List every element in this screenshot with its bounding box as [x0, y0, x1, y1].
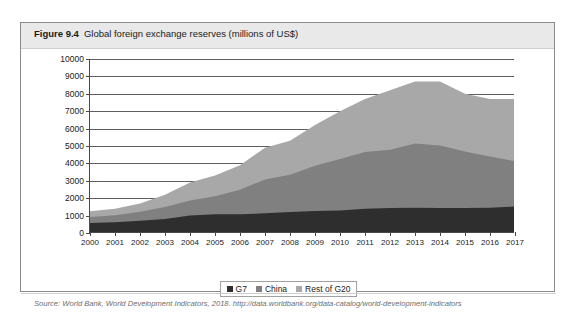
stacked-area-series	[90, 59, 514, 232]
chart-legend: G7ChinaRest of G20	[220, 281, 358, 297]
y-axis-tick	[86, 198, 90, 199]
x-axis-tick	[240, 232, 241, 236]
x-axis-label: 2009	[306, 238, 324, 247]
x-axis-tick	[165, 232, 166, 236]
figure-caption-text: Global foreign exchange reserves (millio…	[84, 28, 298, 39]
x-axis-label: 2014	[431, 238, 449, 247]
y-axis-tick	[86, 94, 90, 95]
x-axis-label: 2000	[81, 238, 99, 247]
x-axis-tick	[440, 232, 441, 236]
legend-swatch-icon	[296, 286, 302, 292]
x-axis-label: 2008	[281, 238, 299, 247]
y-axis-tick	[86, 59, 90, 60]
x-axis-tick	[490, 232, 491, 236]
x-axis-tick	[140, 232, 141, 236]
x-axis-label: 2004	[181, 238, 199, 247]
x-axis-tick	[515, 232, 516, 236]
source-divider	[21, 293, 556, 294]
y-axis-tick	[86, 146, 90, 147]
x-axis-tick	[90, 232, 91, 236]
x-axis-tick	[265, 232, 266, 236]
x-axis-tick	[365, 232, 366, 236]
x-axis-tick	[115, 232, 116, 236]
x-axis-label: 2012	[381, 238, 399, 247]
y-axis-tick	[86, 163, 90, 164]
y-axis-tick	[86, 129, 90, 130]
x-axis-label: 2002	[131, 238, 149, 247]
x-axis-tick	[415, 232, 416, 236]
y-axis-label: 6000	[65, 124, 84, 134]
plot-area: 0100020003000400050006000700080009000100…	[89, 59, 514, 233]
y-axis-label: 8000	[65, 89, 84, 99]
x-axis-label: 2011	[356, 238, 373, 247]
figure-caption: Figure 9.4Global foreign exchange reserv…	[34, 28, 298, 39]
x-axis-label: 2006	[231, 238, 249, 247]
x-axis-tick	[190, 232, 191, 236]
y-axis-label: 7000	[65, 106, 84, 116]
figure-container: Figure 9.4Global foreign exchange reserv…	[20, 22, 555, 292]
x-axis-tick	[290, 232, 291, 236]
x-axis-tick	[465, 232, 466, 236]
y-axis-label: 1000	[65, 211, 84, 221]
y-axis-tick	[86, 181, 90, 182]
x-axis-label: 2007	[256, 238, 274, 247]
chart-region: 0100020003000400050006000700080009000100…	[21, 49, 556, 267]
legend-swatch-icon	[256, 286, 262, 292]
y-axis-label: 10000	[60, 54, 84, 64]
y-axis-label: 5000	[65, 141, 84, 151]
y-axis-label: 9000	[65, 71, 84, 81]
y-axis-label: 0	[79, 228, 84, 238]
y-axis-label: 3000	[65, 176, 84, 186]
x-axis-label: 2013	[406, 238, 424, 247]
x-axis-label: 2017	[506, 238, 524, 247]
y-axis-label: 2000	[65, 193, 84, 203]
x-axis-label: 2005	[206, 238, 224, 247]
x-axis-label: 2010	[331, 238, 349, 247]
x-axis-tick	[390, 232, 391, 236]
x-axis-label: 2003	[156, 238, 174, 247]
x-axis-tick	[215, 232, 216, 236]
y-axis-tick	[86, 76, 90, 77]
y-axis-tick	[86, 216, 90, 217]
y-axis-tick	[86, 111, 90, 112]
x-axis-label: 2001	[106, 238, 124, 247]
y-axis-label: 4000	[65, 158, 84, 168]
legend-swatch-icon	[227, 286, 233, 292]
x-axis-tick	[315, 232, 316, 236]
figure-number: Figure 9.4	[34, 28, 79, 39]
x-axis-tick	[340, 232, 341, 236]
source-note: Source: World Bank, World Development In…	[34, 299, 462, 308]
x-axis-label: 2015	[456, 238, 474, 247]
x-axis-label: 2016	[481, 238, 499, 247]
